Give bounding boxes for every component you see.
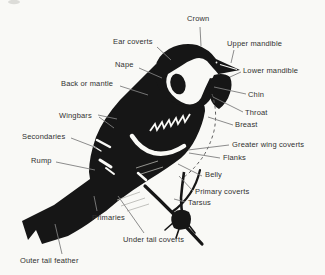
label-under-tail-coverts: Under tail coverts [123, 236, 184, 244]
bird-anatomy-figure: CrownEar covertsUpper mandibleNapeLower … [0, 0, 325, 275]
label-primary-coverts: Primary coverts [195, 188, 249, 196]
label-upper-mandible: Upper mandible [227, 40, 282, 48]
label-secondaries: Secondaries [22, 133, 65, 141]
label-crown: Crown [187, 15, 209, 23]
label-rump: Rump [31, 157, 52, 165]
label-back-or-mantle: Back or mantle [61, 80, 113, 88]
label-layer: CrownEar covertsUpper mandibleNapeLower … [0, 0, 325, 275]
label-outer-tail-feather: Outer tail feather [20, 257, 79, 265]
label-primaries: Primaries [92, 214, 125, 222]
label-breast: Breast [235, 121, 258, 129]
label-nape: Nape [115, 61, 134, 69]
label-wingbars: Wingbars [59, 112, 92, 120]
label-lower-mandible: Lower mandible [243, 67, 298, 75]
label-throat: Throat [245, 109, 268, 117]
label-greater-wing-coverts: Greater wing coverts [232, 141, 304, 149]
label-ear-coverts: Ear coverts [113, 38, 153, 46]
label-tarsus: Tarsus [188, 199, 211, 207]
label-belly: Belly [205, 171, 222, 179]
label-flanks: Flanks [223, 154, 246, 162]
label-chin: Chin [248, 91, 264, 99]
